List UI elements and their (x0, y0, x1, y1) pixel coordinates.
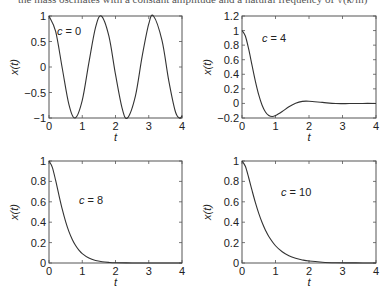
x-axis-label: t (307, 276, 311, 288)
x-tick-label: 4 (179, 265, 185, 277)
damping-annotation: c = 8 (79, 194, 103, 206)
y-tick-label: 0.6 (224, 54, 239, 66)
x-axis-label: t (114, 276, 118, 288)
damped-oscillation-subplots: 0123410.50−0.5−1tx(t)c = 0012341.210.80.… (0, 0, 387, 298)
x-tick-label: 3 (339, 265, 345, 277)
x-axis-label: t (307, 131, 311, 143)
y-tick-label: 0.5 (31, 36, 46, 48)
y-tick-label: 0.4 (224, 216, 239, 228)
y-tick-label: −0.5 (24, 87, 46, 99)
y-tick-label: 0.8 (31, 175, 46, 187)
y-tick-label: 0.8 (224, 175, 239, 187)
subplot-c10: 0123410.80.60.40.20tx(t)c = 10 (201, 155, 379, 288)
y-tick-label: 0 (233, 97, 239, 109)
x-tick-label: 1 (272, 265, 278, 277)
y-axis-label: x(t) (8, 59, 20, 76)
x-tick-label: 4 (373, 120, 379, 132)
y-tick-label: 0.8 (224, 39, 239, 51)
plot-frame (49, 161, 182, 263)
y-tick-label: 0.2 (224, 237, 239, 249)
damping-annotation: c = 10 (281, 186, 311, 198)
damping-annotation: c = 4 (262, 32, 286, 44)
y-tick-label: 1 (40, 10, 46, 22)
x-tick-label: 1 (272, 120, 278, 132)
series-line (49, 161, 182, 263)
y-axis-label: x(t) (201, 59, 213, 76)
x-tick-label: 0 (46, 265, 52, 277)
y-tick-label: 0.4 (224, 68, 239, 80)
y-tick-label: −1 (33, 112, 46, 124)
series-line (242, 161, 376, 263)
y-tick-label: 0.4 (31, 216, 46, 228)
subplot-c0: 0123410.50−0.5−1tx(t)c = 0 (8, 10, 185, 143)
y-tick-label: 1.2 (224, 10, 239, 22)
x-axis-label: t (114, 131, 118, 143)
y-tick-label: 0.2 (31, 237, 46, 249)
x-tick-label: 0 (239, 265, 245, 277)
damping-annotation: c = 0 (57, 25, 81, 37)
x-tick-label: 0 (46, 120, 52, 132)
x-tick-label: 4 (373, 265, 379, 277)
y-tick-label: −0.2 (217, 112, 239, 124)
y-tick-label: 1 (233, 155, 239, 167)
y-tick-label: 0 (40, 61, 46, 73)
y-tick-label: 0 (233, 257, 239, 269)
x-tick-label: 3 (146, 120, 152, 132)
y-axis-label: x(t) (201, 204, 213, 221)
y-tick-label: 0.6 (31, 196, 46, 208)
y-tick-label: 1 (233, 25, 239, 37)
y-tick-label: 0.6 (224, 196, 239, 208)
x-tick-label: 1 (79, 265, 85, 277)
x-tick-label: 3 (146, 265, 152, 277)
y-tick-label: 1 (40, 155, 46, 167)
x-tick-label: 4 (179, 120, 185, 132)
y-tick-label: 0.2 (224, 83, 239, 95)
subplot-c4: 012341.210.80.60.40.20−0.2tx(t)c = 4 (201, 10, 379, 143)
plot-frame (242, 161, 376, 263)
x-tick-label: 3 (339, 120, 345, 132)
y-axis-label: x(t) (8, 204, 20, 221)
subplot-c8: 0123410.80.60.40.20tx(t)c = 8 (8, 155, 185, 288)
y-tick-label: 0 (40, 257, 46, 269)
x-tick-label: 1 (79, 120, 85, 132)
x-tick-label: 0 (239, 120, 245, 132)
